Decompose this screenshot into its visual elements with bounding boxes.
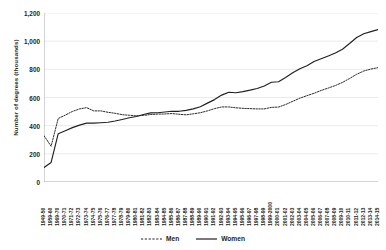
x-tick-label: 1980-81 [132, 208, 138, 226]
x-tick-label: 2013-14 [367, 208, 373, 226]
x-tick-label: 1969-70 [54, 208, 60, 226]
x-tick-label: 1994-95 [232, 208, 238, 226]
y-tick-label: 400 [6, 122, 40, 129]
legend-label-women: Women [221, 235, 245, 242]
x-tick-label: 1974-75 [90, 208, 96, 226]
x-tick-label: 1978-79 [118, 208, 124, 226]
y-tick-label: 800 [6, 66, 40, 73]
x-tick-label: 1989-90 [196, 208, 202, 226]
x-tick-label: 1992-93 [218, 208, 224, 226]
x-tick-label: 1977-78 [111, 208, 117, 226]
x-tick-label: 2003-04 [296, 208, 302, 226]
x-tick-label: 1983-84 [154, 208, 160, 226]
x-tick-label: 1988-89 [189, 208, 195, 226]
x-tick-label: 1981-82 [139, 208, 145, 226]
x-tick-label: 1996-97 [246, 208, 252, 226]
y-tick-label: 600 [6, 94, 40, 101]
x-tick-label: 1959-60 [47, 208, 53, 226]
x-tick-label: 1991-92 [210, 208, 216, 226]
legend-swatch-women-solid-line [196, 237, 217, 241]
x-tick-label: 1984-85 [161, 208, 167, 226]
x-tick-label: 1986-87 [175, 208, 181, 226]
x-tick-label: 2010-11 [345, 208, 351, 226]
x-tick-label: 1990-91 [203, 208, 209, 226]
chart-container: Number of degrees (thousands) 0200400600… [0, 0, 386, 250]
x-tick-label: 1979-80 [125, 208, 131, 226]
x-tick-label: 1985-86 [168, 208, 174, 226]
y-tick-label: 200 [6, 150, 40, 157]
x-tick-label: 1997-98 [253, 208, 259, 226]
x-tick-label: 2006-07 [317, 208, 323, 226]
legend-item-women: Women [196, 235, 245, 242]
x-tick-label: 1975-76 [97, 208, 103, 226]
x-tick-label: 2014-15 [374, 208, 380, 226]
x-tick-label: 1971-72 [68, 208, 74, 226]
x-tick-label: 1976-77 [104, 208, 110, 226]
x-tick-label: 2002-03 [289, 208, 295, 226]
x-tick-label: 1987-88 [182, 208, 188, 226]
y-tick-label: 1,000 [6, 38, 40, 45]
x-tick-label: 2011-12 [353, 208, 359, 226]
legend-label-men: Men [166, 235, 179, 242]
x-tick-label: 2008-09 [331, 208, 337, 226]
x-tick-label: 1972-73 [75, 208, 81, 226]
plot-area [44, 13, 378, 182]
x-tick-label: 1949-50 [40, 208, 46, 226]
y-tick-label: 0 [6, 179, 40, 186]
legend-swatch-men-dashed-line [141, 237, 162, 241]
x-tick-label: 1999-2000 [267, 202, 273, 226]
x-tick-label: 2007-08 [324, 208, 330, 226]
x-tick-label: 1995-96 [239, 208, 245, 226]
x-tick-label: 1982-83 [146, 208, 152, 226]
x-tick-label: 1998-99 [260, 208, 266, 226]
x-tick-label: 2001-02 [282, 208, 288, 226]
x-tick-label: 2004-05 [303, 208, 309, 226]
series-line-men [44, 68, 378, 147]
x-tick-label: 2005-06 [310, 208, 316, 226]
x-tick-label: 1993-94 [225, 208, 231, 226]
series-line-women [44, 30, 378, 168]
y-tick-label: 1,200 [6, 10, 40, 17]
x-tick-label: 2009-10 [338, 208, 344, 226]
x-tick-label: 1973-74 [83, 208, 89, 226]
legend-item-men: Men [141, 235, 179, 242]
chart-legend: Men Women [0, 235, 386, 242]
x-tick-label: 1970-71 [61, 208, 67, 226]
x-tick-label: 2000-01 [274, 208, 280, 226]
x-axis-tick-labels: 1949-501959-601969-701970-711971-721972-… [0, 186, 386, 226]
x-tick-label: 2012-13 [360, 208, 366, 226]
